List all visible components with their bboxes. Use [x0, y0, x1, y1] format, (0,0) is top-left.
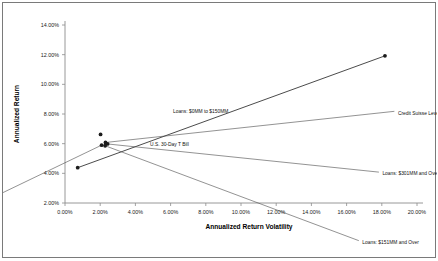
label-leader-line: [108, 144, 379, 172]
y-axis-title: Annualized Return: [13, 85, 20, 143]
y-tick-label: 8.00%: [44, 111, 59, 117]
x-axis-title: Annualized Return Volatility: [205, 223, 292, 231]
data-point-label: Credit Suisse Leveraged Loan Index: [398, 111, 437, 116]
x-tick-label: 2.00%: [93, 209, 108, 215]
x-tick-label: 0.00%: [57, 209, 72, 215]
x-tick-label: 20.00%: [408, 209, 426, 215]
data-point-marker[interactable]: [76, 166, 80, 170]
x-tick-label: 10.00%: [232, 209, 250, 215]
data-point-label: Loans: $0MM to $150MM: [173, 109, 228, 114]
y-tick-label: 4.00%: [44, 170, 59, 176]
data-point-marker[interactable]: [103, 144, 107, 148]
chart-page: 2.00%4.00%6.00%8.00%10.00%12.00%14.00%0.…: [0, 0, 438, 261]
data-point-label: Loans: $151MM and Over: [362, 240, 419, 245]
data-point-marker[interactable]: [99, 133, 103, 137]
x-tick-label: 18.00%: [373, 209, 391, 215]
data-point-label: Loans: $301MM and Over: [382, 171, 437, 176]
x-tick-label: 14.00%: [302, 209, 320, 215]
scatter-plot: 2.00%4.00%6.00%8.00%10.00%12.00%14.00%0.…: [3, 3, 437, 259]
chart-frame: 2.00%4.00%6.00%8.00%10.00%12.00%14.00%0.…: [2, 2, 436, 258]
label-leader-line: [3, 145, 102, 247]
y-tick-label: 6.00%: [44, 141, 59, 147]
data-point-marker[interactable]: [100, 143, 104, 147]
y-tick-label: 14.00%: [41, 22, 59, 28]
y-tick-label: 2.00%: [44, 200, 59, 206]
x-tick-label: 6.00%: [163, 209, 178, 215]
label-leader-line: [105, 111, 394, 142]
data-point-label: U.S. 30-Day T Bill: [150, 142, 189, 147]
x-tick-label: 8.00%: [198, 209, 213, 215]
y-tick-label: 10.00%: [41, 81, 59, 87]
y-tick-label: 12.00%: [41, 52, 59, 58]
x-tick-label: 4.00%: [128, 209, 143, 215]
x-tick-label: 16.00%: [337, 209, 355, 215]
data-point-marker[interactable]: [383, 54, 387, 58]
trend-line: [78, 56, 385, 168]
